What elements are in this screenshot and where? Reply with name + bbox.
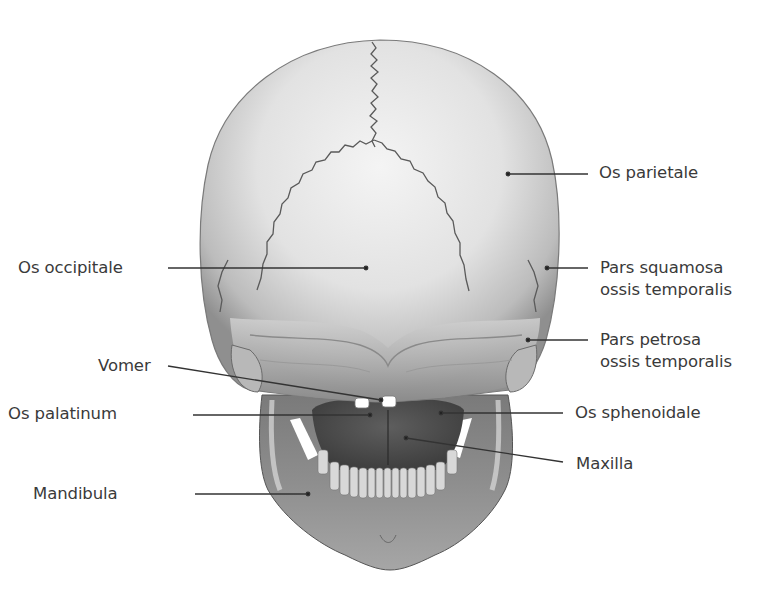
skull-illustration — [0, 0, 776, 604]
label-pars-squamosa-line1: Pars squamosa — [600, 257, 732, 279]
label-mandibula: Mandibula — [33, 483, 118, 505]
label-pars-squamosa-line2: ossis temporalis — [600, 279, 732, 301]
label-os-parietale: Os parietale — [599, 162, 698, 184]
label-pars-squamosa: Pars squamosa ossis temporalis — [600, 257, 732, 301]
label-os-occipitale: Os occipitale — [18, 257, 123, 279]
label-pars-petrosa-line2: ossis temporalis — [600, 351, 732, 373]
label-os-palatinum: Os palatinum — [8, 403, 117, 425]
label-pars-petrosa-line1: Pars petrosa — [600, 329, 732, 351]
label-os-sphenoidale: Os sphenoidale — [575, 402, 701, 424]
label-maxilla: Maxilla — [576, 453, 633, 475]
skull-posterior-diagram: Os occipitale Vomer Os palatinum Mandibu… — [0, 0, 776, 604]
label-pars-petrosa: Pars petrosa ossis temporalis — [600, 329, 732, 373]
label-vomer: Vomer — [98, 355, 151, 377]
